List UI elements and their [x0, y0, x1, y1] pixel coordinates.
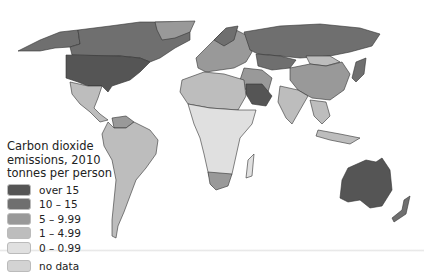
- legend-title-line: tonnes per person: [7, 167, 157, 181]
- map-legend: Carbon dioxide emissions, 2010 tonnes pe…: [7, 140, 157, 272]
- region-mexico: [70, 82, 108, 122]
- legend-title: Carbon dioxide emissions, 2010 tonnes pe…: [7, 140, 157, 181]
- legend-item-10-15: 10 – 15: [7, 197, 157, 212]
- legend-swatch: [7, 213, 31, 225]
- region-russia: [244, 24, 380, 58]
- region-new-zealand: [392, 196, 410, 222]
- legend-item-no-data: no data: [7, 259, 157, 272]
- legend-swatch: [7, 198, 31, 210]
- legend-item-over-15: over 15: [7, 183, 157, 198]
- region-australia: [340, 158, 392, 208]
- region-south-africa: [208, 172, 232, 190]
- legend-label: 10 – 15: [39, 198, 78, 210]
- legend-item-5-9-99: 5 – 9.99: [7, 212, 157, 227]
- region-madagascar: [246, 154, 254, 178]
- legend-item-0-0-99: 0 – 0.99: [7, 241, 157, 256]
- region-indonesia: [316, 130, 360, 144]
- legend-label: no data: [39, 260, 79, 272]
- legend-swatch: [7, 184, 31, 196]
- region-japan: [352, 58, 366, 82]
- legend-label: 1 – 4.99: [39, 227, 81, 239]
- legend-swatch: [7, 260, 31, 272]
- legend-title-line: Carbon dioxide: [7, 140, 157, 154]
- legend-swatch: [7, 227, 31, 239]
- legend-label: over 15: [39, 184, 79, 196]
- legend-label: 0 – 0.99: [39, 242, 81, 254]
- legend-label: 5 – 9.99: [39, 213, 81, 225]
- legend-title-line: emissions, 2010: [7, 154, 157, 168]
- legend-item-1-4-99: 1 – 4.99: [7, 226, 157, 241]
- legend-swatch: [7, 242, 31, 254]
- region-southeast-asia: [310, 100, 330, 124]
